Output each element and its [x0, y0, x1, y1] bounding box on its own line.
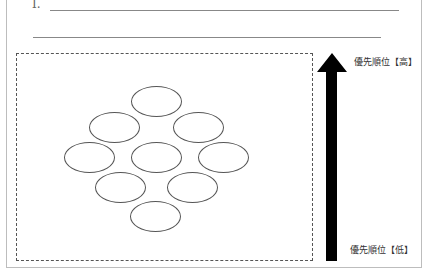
ranking-ellipse[interactable] — [130, 201, 181, 232]
ranking-ellipse[interactable] — [95, 172, 146, 203]
priority-arrow-icon — [317, 53, 347, 261]
answer-line-2[interactable] — [33, 37, 381, 38]
priority-high-label: 優先順位【高】 — [354, 55, 417, 68]
priority-low-label: 優先順位【低】 — [350, 243, 413, 256]
ranking-ellipse[interactable] — [173, 112, 224, 143]
ranking-ellipse[interactable] — [64, 142, 115, 173]
ranking-ellipse[interactable] — [198, 142, 249, 173]
answer-line-1[interactable] — [50, 10, 399, 11]
ranking-ellipse[interactable] — [89, 112, 140, 143]
ranking-ellipse[interactable] — [167, 172, 218, 203]
ranking-ellipse[interactable] — [131, 142, 182, 173]
item-number: I. — [32, 0, 41, 11]
ranking-ellipse[interactable] — [131, 86, 182, 117]
